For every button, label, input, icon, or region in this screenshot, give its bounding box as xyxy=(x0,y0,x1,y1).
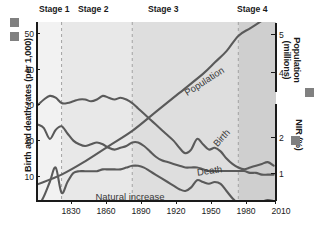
left-tickmark-40 xyxy=(36,69,40,70)
left-tickmark-20 xyxy=(36,140,40,141)
stage-label-4: Stage 4 xyxy=(237,4,268,14)
left-tickmark-50 xyxy=(36,33,40,34)
right-nir-axis-spine xyxy=(275,104,277,201)
curve-label-natural-increase: Natural increase xyxy=(95,191,164,200)
right-pop-tick-5: 5 xyxy=(279,30,299,40)
x-tick-1920: 1920 xyxy=(159,206,193,216)
x-tick-1890: 1890 xyxy=(124,206,158,216)
x-tick-1860: 1860 xyxy=(89,206,123,216)
right-pop-tickmark-5 xyxy=(271,34,275,35)
x-tickmark-1890 xyxy=(141,200,142,204)
demographic-transition-chart: PopulationBirthDeathNatural increase Sta… xyxy=(0,0,327,229)
legend-swatch-population xyxy=(305,88,314,97)
left-tick-50: 50 xyxy=(14,29,34,39)
right-nir-tick-2: 2 xyxy=(279,133,299,143)
right-pop-tickmark-4 xyxy=(271,72,275,73)
left-axis-spine xyxy=(36,22,38,202)
x-tickmark-1920 xyxy=(176,200,177,204)
left-tick-10: 10 xyxy=(14,172,34,182)
left-tick-40: 40 xyxy=(14,65,34,75)
x-tick-2010: 2010 xyxy=(264,206,298,216)
stage-label-2: Stage 2 xyxy=(78,4,109,14)
plot-area: PopulationBirthDeathNatural increase xyxy=(38,22,276,200)
stage-label-3: Stage 3 xyxy=(148,4,179,14)
left-tick-20: 20 xyxy=(14,136,34,146)
right-nir-tickmark-1 xyxy=(271,173,275,174)
right-pop-tick-4: 4 xyxy=(279,68,299,78)
left-tickmark-10 xyxy=(36,176,40,177)
plot-canvas: PopulationBirthDeathNatural increase xyxy=(38,22,276,200)
x-tickmark-1860 xyxy=(106,200,107,204)
left-tickmark-30 xyxy=(36,104,40,105)
stage-label-1: Stage 1 xyxy=(39,4,70,14)
x-tickmark-1830 xyxy=(71,200,72,204)
right-population-axis-spine xyxy=(275,23,277,92)
x-tick-1980: 1980 xyxy=(229,206,263,216)
legend-swatch-left-top xyxy=(10,18,19,27)
x-tick-1830: 1830 xyxy=(54,206,88,216)
left-tick-30: 30 xyxy=(14,100,34,110)
x-tickmark-2010 xyxy=(275,200,276,204)
x-tickmark-1950 xyxy=(211,200,212,204)
x-tickmark-1980 xyxy=(246,200,247,204)
x-tick-1950: 1950 xyxy=(194,206,228,216)
right-nir-tickmark-2 xyxy=(271,137,275,138)
right-nir-tick-1: 1 xyxy=(279,169,299,179)
